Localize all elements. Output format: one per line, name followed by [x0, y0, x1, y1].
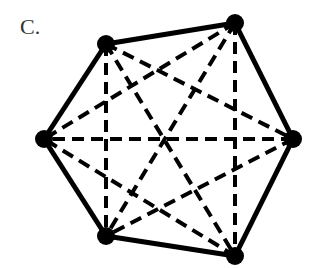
complete-graph-diagram	[0, 0, 322, 268]
solid-edge	[235, 23, 293, 139]
vertex	[226, 247, 244, 265]
solid-edge	[44, 44, 106, 139]
vertex	[97, 35, 115, 53]
dashed-edge	[106, 44, 235, 256]
solid-edge	[235, 139, 293, 256]
vertex	[226, 14, 244, 32]
vertex	[35, 130, 53, 148]
vertex	[97, 227, 115, 245]
dashed-edge	[106, 44, 293, 139]
vertex	[284, 130, 302, 148]
dashed-edge	[44, 139, 235, 256]
solid-edge	[44, 139, 106, 236]
